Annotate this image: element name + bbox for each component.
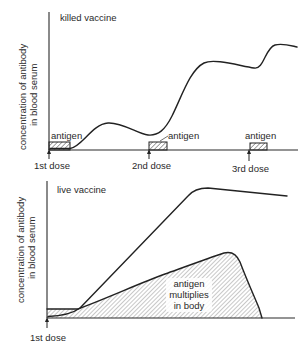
top-y-axis-label-line1: concentration of antibody (17, 44, 28, 150)
vaccine-antibody-diagram: concentration of antibody in blood serum… (0, 0, 307, 353)
antigen-label-dose-1: antigen (51, 130, 82, 141)
antigen-region-label-line3: in body (174, 300, 205, 311)
top-panel-title: killed vaccine (60, 12, 117, 23)
bottom-dose-label-1: 1st dose (30, 332, 66, 343)
antigen-region-label-line2: multiplies (169, 289, 209, 300)
dose-label-2: 2nd dose (132, 160, 171, 171)
antigen-box-dose-2 (149, 142, 167, 150)
antigen-label-dose-2: antigen (168, 130, 199, 141)
antigen-label-dose-3: antigen (245, 130, 276, 141)
bottom-y-axis-label-line1: concentration of antibody (15, 197, 26, 303)
dose-label-3: 3rd dose (232, 163, 269, 174)
bottom-panel-title: live vaccine (57, 184, 106, 195)
killed-vaccine-panel: concentration of antibody in blood serum… (17, 12, 298, 174)
antigen-region-label-line1: antigen (173, 278, 204, 289)
antigen-leader-dose-2 (160, 136, 168, 141)
arrow-up-icon (247, 149, 251, 161)
dose-label-1: 1st dose (34, 160, 70, 171)
live-vaccine-panel: concentration of antibody in blood serum… (15, 181, 295, 343)
arrow-up-icon (45, 317, 49, 328)
bottom-y-axis-label-line2: in blood serum (26, 217, 37, 279)
antigen-box-dose-3 (250, 143, 267, 150)
top-y-axis-label-line2: in blood serum (28, 64, 39, 126)
